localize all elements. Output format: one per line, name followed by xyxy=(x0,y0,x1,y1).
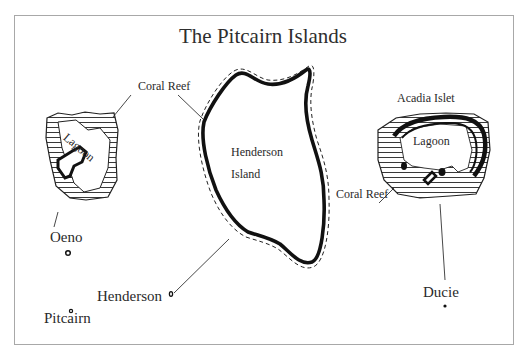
leader-oeno xyxy=(54,212,58,227)
label-henderson-island-2: Island xyxy=(231,168,260,180)
map-title: The Pitcairn Islands xyxy=(0,26,526,47)
leader-ducie xyxy=(440,204,445,280)
label-ducie-lagoon: Lagoon xyxy=(413,135,450,147)
henderson-dot xyxy=(169,292,172,297)
henderson-island xyxy=(198,65,329,268)
leader-henderson xyxy=(174,239,229,293)
map-drawing xyxy=(0,0,526,363)
label-oeno: Oeno xyxy=(50,230,83,245)
leader-coral-reef-oeno xyxy=(113,95,131,117)
label-henderson: Henderson xyxy=(97,289,162,304)
label-coral-reef-right: Coral Reef xyxy=(336,188,388,200)
oeno-dot xyxy=(66,251,71,256)
label-pitcairn: Pitcairn xyxy=(44,311,91,326)
ducie-atoll xyxy=(378,113,490,198)
label-coral-reef-top: Coral Reef xyxy=(138,80,190,92)
leader-coral-reef-henderson xyxy=(178,95,203,119)
label-ducie: Ducie xyxy=(423,285,459,300)
label-acadia-islet: Acadia Islet xyxy=(397,92,455,104)
label-henderson-island-1: Henderson xyxy=(231,146,283,158)
ducie-dot xyxy=(443,304,446,307)
